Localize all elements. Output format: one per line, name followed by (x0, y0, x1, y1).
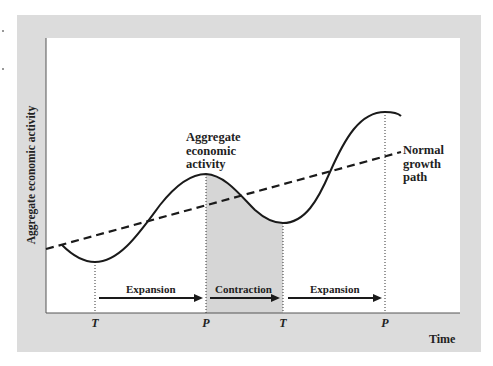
phase-label-expansion-1: Expansion (126, 283, 176, 295)
x-axis-label: Time (429, 332, 455, 347)
tick-trough-1: T (91, 316, 98, 331)
tick-peak-2: P (381, 316, 388, 331)
trend-label-line: growth (403, 158, 444, 172)
scan-artifact (2, 30, 4, 32)
trend-label-line: path (403, 171, 444, 185)
expansion-arrow-1 (99, 294, 203, 302)
curve-label-line: Aggregate (186, 131, 241, 145)
trend-label: Normal growth path (403, 144, 444, 185)
scan-artifact (2, 68, 4, 70)
trend-label-line: Normal (403, 144, 444, 158)
expansion-arrow-2 (288, 294, 382, 302)
curve-label: Aggregate economic activity (186, 131, 241, 172)
curve-label-line: activity (186, 158, 241, 172)
tick-trough-2: T (279, 316, 286, 331)
phase-label-contraction: Contraction (215, 283, 272, 295)
curve-label-line: economic (186, 145, 241, 159)
tick-peak-1: P (202, 316, 209, 331)
y-axis-label: Aggregate economic activity (25, 106, 37, 244)
phase-label-expansion-2: Expansion (310, 283, 360, 295)
